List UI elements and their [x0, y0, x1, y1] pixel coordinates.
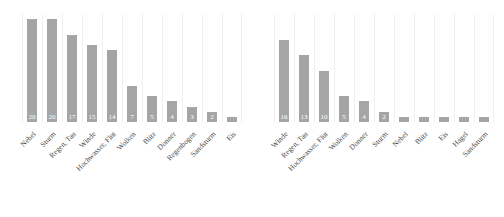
category-label-slot: Hochwasser, Flut	[314, 124, 334, 204]
category-label-text: Blitz	[413, 130, 430, 147]
bar-value-label: 20	[29, 113, 36, 121]
category-label-text: Nebel	[19, 130, 38, 149]
chart-panel-left: 202017151475432 NebelSturmRegen, TauWind…	[0, 0, 252, 217]
bar-slot: 17	[62, 14, 82, 122]
plot-area-right: 161310542	[274, 14, 494, 122]
category-label-slot: Nebel	[394, 124, 414, 204]
bar-slot: 20	[22, 14, 42, 122]
bar-slot: 10	[314, 14, 334, 122]
bar-slot: 2	[374, 14, 394, 122]
category-label-text: Eis	[437, 130, 450, 143]
category-label-text: Sturm	[370, 130, 389, 149]
category-label-slot: Donner	[162, 124, 182, 204]
bar[interactable]: 16	[279, 40, 289, 122]
bar-slot	[434, 14, 454, 122]
category-label-slot: Sturm	[42, 124, 62, 204]
category-label-slot: Sandsturm	[474, 124, 494, 204]
bar[interactable]: 4	[167, 101, 177, 122]
category-label-slot: Sturm	[374, 124, 394, 204]
bar[interactable]: 13	[299, 55, 309, 122]
bar-slot: 14	[102, 14, 122, 122]
bar[interactable]	[439, 117, 449, 122]
bar-series-left: 202017151475432	[22, 14, 242, 122]
bar-slot: 16	[274, 14, 294, 122]
bar-slot: 20	[42, 14, 62, 122]
bar-series-right: 161310542	[274, 14, 494, 122]
category-label-slot: Wolken	[334, 124, 354, 204]
category-label-slot: Blitz	[414, 124, 434, 204]
category-label-slot: Eis	[222, 124, 242, 204]
plot-area-left: 202017151475432	[22, 14, 242, 122]
bar-slot	[394, 14, 414, 122]
chart-panel-right: 161310542 WindeRegen, TauHochwasser, Flu…	[252, 0, 504, 217]
bar[interactable]: 20	[27, 19, 37, 122]
category-label-slot: Eis	[434, 124, 454, 204]
bar[interactable]: 20	[47, 19, 57, 122]
bar-slot: 4	[162, 14, 182, 122]
category-axis-left: NebelSturmRegen, TauWindeHochwasser, Flu…	[22, 124, 242, 204]
bar-value-label: 17	[69, 113, 76, 121]
category-label-slot: Regenbogen	[182, 124, 202, 204]
category-label-text: Nebel	[391, 130, 410, 149]
category-label-slot: Sandsturm	[202, 124, 222, 204]
category-label: Eis	[231, 123, 244, 136]
category-label-text: Eis	[225, 130, 238, 143]
category-label-slot: Nebel	[22, 124, 42, 204]
bar[interactable]: 14	[107, 50, 117, 122]
bar-value-label: 4	[170, 113, 174, 121]
bar-slot: 3	[182, 14, 202, 122]
bar[interactable]: 17	[67, 35, 77, 122]
bar-value-label: 16	[281, 113, 288, 121]
bar[interactable]	[459, 117, 469, 122]
two-panel-bar-chart-figure: 202017151475432 NebelSturmRegen, TauWind…	[0, 0, 504, 217]
category-label-slot: Blitz	[142, 124, 162, 204]
bar-slot	[414, 14, 434, 122]
bar-slot: 15	[82, 14, 102, 122]
category-label-slot: Donner	[354, 124, 374, 204]
category-label-slot: Hagel	[454, 124, 474, 204]
bar-slot: 13	[294, 14, 314, 122]
bar-value-label: 20	[49, 113, 56, 121]
bar-slot	[454, 14, 474, 122]
category-label-slot: Wolken	[122, 124, 142, 204]
bar-slot	[474, 14, 494, 122]
category-axis-right: WindeRegen, TauHochwasser, FlutWolkenDon…	[274, 124, 494, 204]
bar-slot	[222, 14, 242, 122]
category-label-slot: Hochwasser, Flut	[102, 124, 122, 204]
